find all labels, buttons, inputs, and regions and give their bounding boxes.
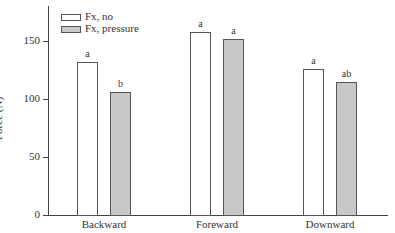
y-tick [43,215,48,216]
significance-label: a [299,55,329,66]
bar-backward-pressure [110,92,131,216]
bar-downward-no [303,69,324,216]
y-tick [43,99,48,100]
x-tick-label: Foreward [177,218,257,230]
x-tick-label: Downward [290,218,370,230]
significance-label: a [219,25,249,36]
legend-label: Fx, no [85,10,113,22]
x-tick-label: Backward [64,218,144,230]
significance-label: a [73,48,103,59]
legend-swatch [61,26,81,33]
legend-swatch [61,14,81,21]
y-tick [43,41,48,42]
bar-downward-pressure [336,82,357,216]
y-tick [43,157,48,158]
bar-foreward-no [190,32,211,216]
significance-label: b [106,78,136,89]
bar-foreward-pressure [223,39,244,216]
significance-label: a [186,18,216,29]
y-tick-label: 150 [4,34,40,46]
y-tick-label: 50 [4,150,40,162]
y-tick-label: 100 [4,92,40,104]
y-axis [48,6,49,216]
significance-label: ab [332,68,362,79]
legend-label: Fx, pressure [85,22,139,34]
bar-backward-no [77,62,98,216]
y-tick-label: 0 [4,208,40,220]
